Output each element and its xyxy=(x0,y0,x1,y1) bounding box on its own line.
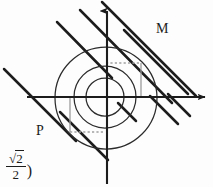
coordinate-axes xyxy=(27,11,205,184)
math-figure: M P √2 2 ) xyxy=(0,0,213,187)
point-label-p: P xyxy=(36,124,44,138)
coordinate-fragment: √2 2 ) xyxy=(6,152,32,181)
parallel-line-2 xyxy=(57,22,112,78)
closing-paren: ) xyxy=(27,162,32,181)
fraction-numerator: √2 xyxy=(6,152,26,167)
radical: √2 xyxy=(8,152,24,165)
fraction-sqrt2-over-2: √2 2 xyxy=(6,152,26,181)
point-label-m: M xyxy=(156,22,168,36)
parallel-line-family-lower xyxy=(118,94,190,124)
radicand: 2 xyxy=(15,150,24,166)
fraction-denominator: 2 xyxy=(13,167,20,181)
